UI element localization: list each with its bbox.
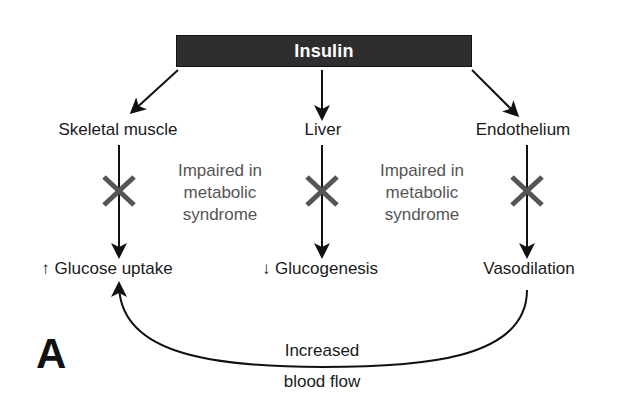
insulin-label: Insulin bbox=[294, 41, 353, 62]
down-arrow-icon: ↓ bbox=[262, 259, 271, 278]
impaired-note-left: Impaired in metabolic syndrome bbox=[150, 160, 290, 226]
target-label-liver: Liver bbox=[305, 120, 342, 140]
impaired-note-line: syndrome bbox=[352, 204, 492, 226]
effect-label-glucogenesis: ↓ Glucogenesis bbox=[262, 259, 378, 279]
effect-text: Glucose uptake bbox=[55, 259, 173, 278]
diagram-canvas: Insulin Skeletal muscle Liver Endotheliu… bbox=[0, 0, 617, 418]
up-arrow-icon: ↑ bbox=[41, 259, 50, 278]
arrow-insulin-to-muscle bbox=[132, 70, 178, 112]
impaired-note-line: syndrome bbox=[150, 204, 290, 226]
effect-text: Glucogenesis bbox=[275, 259, 378, 278]
effect-label-glucose-uptake: ↑ Glucose uptake bbox=[41, 259, 172, 279]
impaired-note-line: metabolic bbox=[150, 182, 290, 204]
target-label-endothelium: Endothelium bbox=[476, 120, 571, 140]
impaired-note-line: Impaired in bbox=[150, 160, 290, 182]
feedback-label-line1: Increased bbox=[285, 341, 360, 361]
impaired-note-right: Impaired in metabolic syndrome bbox=[352, 160, 492, 226]
impaired-note-line: metabolic bbox=[352, 182, 492, 204]
arrow-insulin-to-endothelium bbox=[472, 70, 517, 115]
feedback-label-line2: blood flow bbox=[284, 372, 361, 392]
panel-label: A bbox=[36, 330, 66, 378]
insulin-header-bar: Insulin bbox=[176, 35, 472, 67]
target-label-skeletal-muscle: Skeletal muscle bbox=[58, 120, 177, 140]
impaired-note-line: Impaired in bbox=[352, 160, 492, 182]
effect-label-vasodilation: Vasodilation bbox=[483, 259, 574, 279]
